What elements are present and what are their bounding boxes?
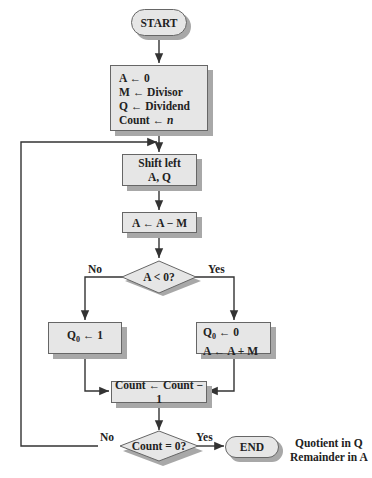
- subtract-box: A ← A − M: [122, 212, 197, 233]
- shift-line2: A, Q: [148, 170, 171, 184]
- end-terminal: END: [225, 436, 279, 458]
- decision2-yes-label: Yes: [196, 430, 213, 444]
- decision1-text: A < 0?: [122, 269, 196, 285]
- set-q0-label: Q0 ← 1: [67, 328, 103, 347]
- shift-line1: Shift left: [138, 156, 180, 170]
- result-quotient: Quotient in Q: [290, 436, 368, 450]
- decision1-yes-label: Yes: [208, 262, 225, 276]
- decrement-box: Count ← Count − 1: [111, 381, 207, 403]
- restore-line2: A ← A + M: [203, 344, 270, 358]
- subtract-label: A ← A − M: [132, 216, 187, 230]
- init-line-count: Count ← n: [119, 113, 207, 127]
- start-label: START: [140, 17, 177, 29]
- shift-left-box: Shift left A, Q: [122, 154, 197, 186]
- init-line-m: M ← Divisor: [119, 85, 207, 99]
- decision2-text: Count = 0?: [120, 438, 198, 454]
- decision1-no-label: No: [88, 262, 102, 276]
- init-line-q: Q ← Dividend: [119, 99, 207, 113]
- decision2-no-label: No: [100, 430, 114, 444]
- restore-box: Q0 ← 0 A ← A + M: [196, 322, 271, 354]
- init-line-a: A ← 0: [119, 71, 207, 85]
- restore-line1: Q0 ← 0: [203, 325, 270, 344]
- set-q0-one-box: Q0 ← 1: [48, 322, 122, 354]
- init-box: A ← 0 M ← Divisor Q ← Dividend Count ← n: [110, 65, 208, 131]
- end-label: END: [240, 441, 264, 453]
- decrement-label: Count ← Count − 1: [112, 378, 206, 406]
- result-note: Quotient in Q Remainder in A: [290, 436, 368, 464]
- result-remainder: Remainder in A: [290, 450, 368, 464]
- start-terminal: START: [131, 9, 187, 36]
